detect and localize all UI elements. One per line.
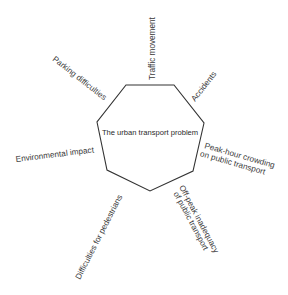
factor-off-peak-inadequacy: Off-peak inadequacy of public transport (170, 184, 221, 259)
factor-peak-hour-crowding: Peak-hour crowding on public transport (199, 141, 276, 179)
factor-parking-difficulties: Parking difficulties (51, 54, 108, 102)
factor-traffic-movement: Traffic movement (148, 16, 157, 80)
factor-accidents: Accidents (189, 70, 218, 104)
urban-transport-diagram: The urban transport problem Traffic move… (0, 0, 288, 295)
central-heptagon (97, 85, 204, 191)
factor-difficulties-for-pedestrians: Difficulties for pedestrians (74, 193, 125, 280)
center-label: The urban transport problem (102, 128, 198, 137)
factor-environmental-impact: Environmental impact (15, 145, 95, 164)
